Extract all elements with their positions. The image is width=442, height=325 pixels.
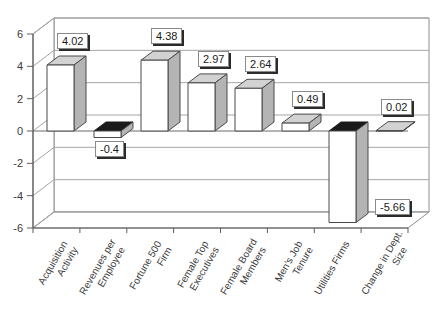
bar-front-face <box>141 60 168 131</box>
bar-front-face <box>235 88 262 131</box>
bar-side-face <box>168 51 180 131</box>
bar-front-face <box>188 83 215 131</box>
data-label-female-top-executives: 2.97 <box>198 51 229 67</box>
x-axis <box>33 228 408 233</box>
plot-3d-frame <box>33 18 429 228</box>
y-axis: 6 4 2 0 -2 -4 -6 <box>13 28 33 234</box>
bar-fortune-500-firm[interactable] <box>141 51 180 131</box>
bar-side-face <box>262 79 274 131</box>
y-tick-label-4: -2 <box>13 157 23 169</box>
bar-front-face <box>282 123 309 131</box>
y-tick-label-0: 6 <box>17 28 23 40</box>
bar-acquisition-activity[interactable] <box>47 56 86 131</box>
bar-front-face <box>47 65 74 131</box>
bar-female-top-executives[interactable] <box>188 74 227 131</box>
bar-female-board-members[interactable] <box>235 79 274 131</box>
data-label-female-board-members: 2.64 <box>245 56 276 72</box>
bar-side-face <box>74 56 86 131</box>
data-label-utilities-firms: -5.66 <box>375 199 410 215</box>
floor-plane <box>33 212 429 228</box>
bar-chart: 6 4 2 0 -2 -4 -6 <box>0 0 442 325</box>
y-tick-label-3: 0 <box>17 125 23 137</box>
bar-utilities-firms[interactable] <box>329 122 368 223</box>
y-tick-label-1: 4 <box>17 60 23 72</box>
bar-front-face <box>329 131 356 223</box>
data-label-mens-job-tenure: 0.49 <box>292 91 323 107</box>
bar-side-face <box>356 122 368 223</box>
y-tick-label-5: -4 <box>13 190 23 202</box>
y-tick-label-2: 2 <box>17 93 23 105</box>
data-label-change-in-dept-size: 0.02 <box>381 99 412 115</box>
data-label-acquisition-activity: 4.02 <box>57 33 88 49</box>
y-tick-label-6: -6 <box>13 222 23 234</box>
data-label-fortune-500-firm: 4.38 <box>151 28 182 44</box>
bar-front-face <box>94 131 121 138</box>
data-label-revenues-per-employee: -0.4 <box>95 141 124 157</box>
bar-side-face <box>215 74 227 131</box>
